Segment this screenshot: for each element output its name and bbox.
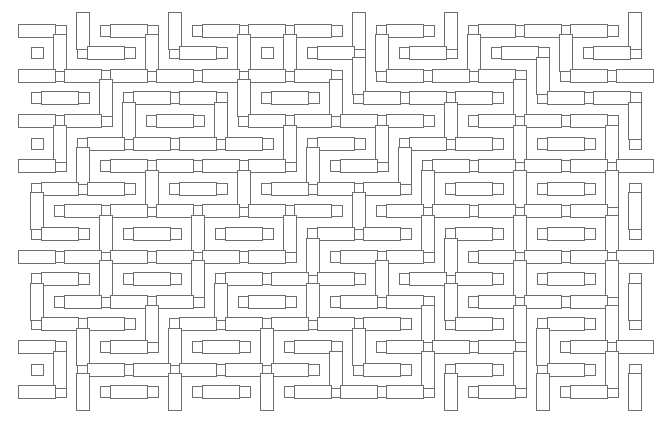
horizontal-bar xyxy=(88,138,125,151)
horizontal-bar xyxy=(571,205,608,218)
horizontal-bar xyxy=(42,92,79,105)
horizontal-bar xyxy=(617,251,654,264)
horizontal-bar xyxy=(65,296,102,309)
vertical-bar xyxy=(77,148,90,185)
vertical-bar xyxy=(192,216,205,253)
horizontal-bar xyxy=(594,47,631,60)
small-square xyxy=(331,342,343,353)
small-square xyxy=(584,229,596,240)
horizontal-bar xyxy=(65,205,102,218)
horizontal-bar xyxy=(318,228,355,241)
small-square xyxy=(492,139,504,150)
horizontal-bar xyxy=(19,115,56,128)
horizontal-bar xyxy=(157,205,194,218)
vertical-bar xyxy=(307,148,320,185)
vertical-bar xyxy=(514,306,527,343)
small-square xyxy=(400,184,412,195)
vertical-bar xyxy=(537,58,550,95)
small-square xyxy=(193,116,205,127)
vertical-bar xyxy=(399,148,412,185)
vertical-bar xyxy=(54,352,67,389)
horizontal-bar xyxy=(387,70,424,83)
vertical-bar xyxy=(629,13,642,50)
small-square xyxy=(216,184,228,195)
small-square xyxy=(285,297,297,308)
horizontal-bar xyxy=(318,47,355,60)
horizontal-bar xyxy=(456,273,493,286)
horizontal-bar xyxy=(42,228,79,241)
vertical-bar xyxy=(376,35,389,72)
horizontal-bar xyxy=(341,251,378,264)
horizontal-bar xyxy=(364,318,401,331)
small-square xyxy=(193,297,205,308)
small-square xyxy=(400,319,412,330)
small-square xyxy=(423,116,435,127)
small-square xyxy=(285,252,297,263)
horizontal-bar xyxy=(295,70,332,83)
horizontal-bar xyxy=(180,318,217,331)
vertical-bar xyxy=(307,239,320,276)
small-square xyxy=(78,229,90,240)
small-square xyxy=(630,139,642,150)
vertical-bar xyxy=(123,103,136,140)
vertical-bar xyxy=(353,193,366,230)
small-square xyxy=(101,116,113,127)
vertical-bar xyxy=(422,352,435,389)
vertical-bar xyxy=(606,352,619,389)
vertical-bar xyxy=(31,284,44,321)
small-square xyxy=(170,229,182,240)
small-square xyxy=(147,342,159,353)
horizontal-bar xyxy=(479,296,516,309)
horizontal-bar xyxy=(203,341,240,354)
vertical-bar xyxy=(445,239,458,276)
vertical-bar xyxy=(169,329,182,366)
horizontal-bar xyxy=(571,160,608,173)
small-square xyxy=(400,365,412,376)
small-square xyxy=(492,274,504,285)
vertical-bar xyxy=(468,35,481,72)
vertical-bar xyxy=(238,80,251,117)
vertical-bar xyxy=(284,35,297,72)
horizontal-bar xyxy=(203,25,240,38)
vertical-bar xyxy=(514,80,527,117)
horizontal-bar xyxy=(410,92,447,105)
horizontal-bar xyxy=(111,205,148,218)
horizontal-bar xyxy=(249,251,286,264)
small-square xyxy=(262,229,274,240)
vertical-bar xyxy=(330,352,343,389)
horizontal-bar xyxy=(295,205,332,218)
horizontal-bar xyxy=(479,70,516,83)
horizontal-bar xyxy=(571,115,608,128)
vertical-bar xyxy=(169,374,182,411)
horizontal-bar xyxy=(456,92,493,105)
horizontal-bar xyxy=(525,296,562,309)
horizontal-bar xyxy=(387,205,424,218)
horizontal-bar xyxy=(617,160,654,173)
horizontal-bar xyxy=(479,25,516,38)
small-square xyxy=(170,274,182,285)
horizontal-bar xyxy=(111,160,148,173)
vertical-bar xyxy=(238,171,251,208)
horizontal-bar xyxy=(134,228,171,241)
horizontal-bar xyxy=(364,183,401,196)
horizontal-bar xyxy=(341,386,378,399)
vertical-bar xyxy=(284,126,297,163)
vertical-bar xyxy=(307,284,320,321)
horizontal-bar xyxy=(571,341,608,354)
horizontal-bar xyxy=(203,386,240,399)
horizontal-bar xyxy=(364,228,401,241)
vertical-bar xyxy=(100,261,113,298)
horizontal-bar xyxy=(157,115,194,128)
horizontal-bar xyxy=(410,273,447,286)
horizontal-bar xyxy=(548,92,585,105)
horizontal-bar xyxy=(295,115,332,128)
horizontal-bar xyxy=(111,70,148,83)
horizontal-bar xyxy=(341,296,378,309)
small-square xyxy=(124,48,136,59)
vertical-bar xyxy=(146,35,159,72)
vertical-bar xyxy=(376,126,389,163)
horizontal-bar xyxy=(249,296,286,309)
horizontal-bar xyxy=(456,228,493,241)
small-square xyxy=(607,26,619,37)
horizontal-bar xyxy=(134,92,171,105)
